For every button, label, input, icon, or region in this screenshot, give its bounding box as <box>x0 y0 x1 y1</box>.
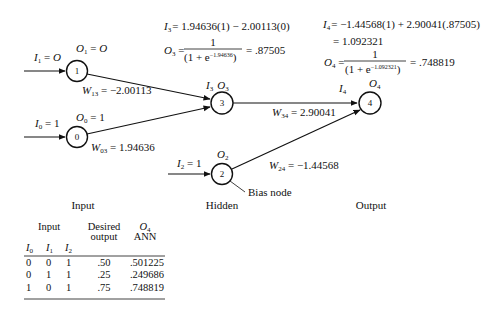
table-row: 0 1 1 .25 .249686 <box>26 269 164 280</box>
node-number: 2 <box>220 169 225 179</box>
node-number: 3 <box>220 98 225 108</box>
cell-desired: .75 <box>97 282 110 293</box>
table-header-input: Input <box>38 221 60 232</box>
equation-o3-denominator: (1 + e−1.94636) <box>184 51 237 64</box>
table-subheader-i0: I0 <box>25 242 34 255</box>
equation-o4-lhs: O4 = <box>324 56 344 70</box>
equation-i4-result: = 1.092321 <box>333 35 383 47</box>
node-4: 4 <box>359 92 381 114</box>
bias-node-label: Bias node <box>248 186 292 198</box>
cell-i0: 0 <box>26 269 31 280</box>
equation-o4-numerator: 1 <box>372 48 378 60</box>
node-number: 4 <box>368 98 373 108</box>
equation-o4-result: = .748819 <box>410 56 455 68</box>
table-header-ann: ANN <box>134 231 157 242</box>
equation-o4-denominator: (1 + e−1.092321) <box>345 63 401 76</box>
weight-w34-label: W34 = 2.90041 <box>272 106 336 120</box>
weight-w03-label: W03 = 1.94636 <box>91 141 155 155</box>
weight-w13-label: W13 = −2.00113 <box>82 84 152 98</box>
node-3-io-label: I3O3 <box>205 79 229 93</box>
cell-ann: .501225 <box>130 257 164 268</box>
layer-label-hidden: Hidden <box>206 199 239 211</box>
cell-i2: 1 <box>66 269 71 280</box>
node-1-output-label: O1 = O <box>76 42 107 56</box>
cell-i0: 1 <box>26 282 31 293</box>
table-header-output: output <box>91 231 118 242</box>
node-0: 0 <box>67 127 88 148</box>
node-3: 3 <box>211 92 233 114</box>
node-0-output-label: O0 = 1 <box>76 111 105 125</box>
cell-i1: 1 <box>46 269 51 280</box>
node-0-input-label: I0 = 1 <box>34 117 59 131</box>
equation-o3-numerator: 1 <box>210 36 216 48</box>
cell-i2: 1 <box>66 257 71 268</box>
cell-desired: .50 <box>97 257 110 268</box>
output-equations: I4= −1.44568(1) + 2.90041(.87505) = 1.09… <box>322 18 480 76</box>
node-number: 0 <box>75 132 80 142</box>
cell-desired: .25 <box>97 269 110 280</box>
bias-node-leader-line <box>230 181 245 192</box>
node-1: 1 <box>67 61 88 82</box>
node-2-input-label: I2 = 1 <box>176 157 201 171</box>
equation-i4: I4= −1.44568(1) + 2.90041(.87505) <box>322 18 480 32</box>
weight-w24-label: W24 = −1.44568 <box>269 159 339 173</box>
cell-i2: 1 <box>66 282 71 293</box>
table-row: 0 0 1 .50 .501225 <box>26 257 164 268</box>
node-number: 1 <box>75 66 80 76</box>
node-1-input-label: I1 = O <box>33 51 61 65</box>
node-4-output-label: O4 <box>369 77 381 91</box>
hidden-equations: I3= 1.94636(1) − 2.00113(0) O3 = 1 (1 + … <box>163 20 290 64</box>
neural-network-diagram: 1 0 3 2 4 I1 = O O1 = O I0 = 1 O0 = 1 I3… <box>0 0 500 316</box>
cell-ann: .249686 <box>130 269 164 280</box>
cell-ann: .748819 <box>130 282 164 293</box>
results-table: Input Desired output O4 ANN I0 I1 I2 0 0… <box>24 221 165 299</box>
equation-i3: I3= 1.94636(1) − 2.00113(0) <box>163 20 290 34</box>
layer-label-input: Input <box>71 199 94 211</box>
table-row: 1 0 1 .75 .748819 <box>26 282 164 293</box>
layer-label-output: Output <box>356 199 387 211</box>
equation-o3-lhs: O3 = <box>164 44 184 58</box>
cell-i1: 0 <box>46 282 51 293</box>
cell-i0: 0 <box>26 257 31 268</box>
table-subheader-i1: I1 <box>45 242 54 255</box>
table-subheader-i2: I2 <box>64 242 73 255</box>
node-2-output-label: O2 <box>217 148 229 162</box>
node-4-input-label: I4 <box>338 82 347 96</box>
cell-i1: 0 <box>46 257 51 268</box>
equation-o3-result: = .87505 <box>246 44 286 56</box>
node-2: 2 <box>212 164 233 185</box>
edge-0-to-3 <box>87 107 210 134</box>
